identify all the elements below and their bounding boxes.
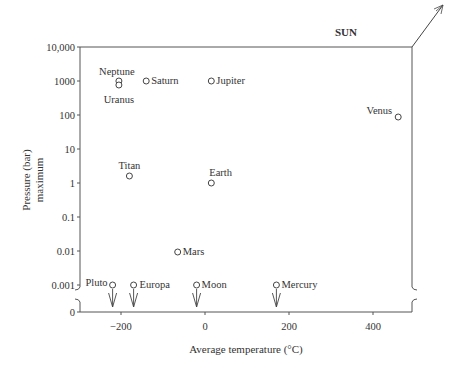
- y-axis-label: Pressure (bar)maximum: [20, 149, 45, 211]
- y-tick-label: 0.01: [57, 246, 75, 257]
- x-tick-label: 200: [281, 321, 297, 332]
- y-tick-label: 1000: [54, 76, 75, 87]
- data-point-mercury: Mercury: [272, 279, 318, 307]
- pressure-temperature-chart: 10,00010001001010.10.010.0010 −200020040…: [0, 0, 454, 366]
- data-point-titan: Titan: [119, 160, 142, 179]
- y-tick-label: 10,000: [46, 42, 75, 53]
- data-points: NeptuneUranusSaturnJupiterVenusTitanEart…: [85, 66, 401, 307]
- plot-frame: [75, 47, 417, 312]
- y-axis-label-line2: maximum: [33, 157, 45, 202]
- circle-marker-icon: [131, 282, 137, 288]
- data-point-venus: Venus: [367, 105, 402, 120]
- data-point-pluto: Pluto: [85, 277, 116, 307]
- point-label: Moon: [202, 279, 228, 290]
- circle-marker-icon: [395, 114, 401, 120]
- y-tick-label: 100: [59, 110, 75, 121]
- sun-arrow-icon: [412, 5, 443, 47]
- point-label: Mars: [183, 246, 205, 257]
- down-arrow-icon: [130, 289, 138, 307]
- sun-annotation: SUN: [335, 5, 443, 47]
- circle-marker-icon: [208, 180, 214, 186]
- point-label: Earth: [209, 167, 232, 178]
- point-label: Titan: [119, 160, 142, 171]
- y-tick-label: 0.1: [62, 212, 75, 223]
- circle-marker-icon: [273, 282, 279, 288]
- point-label: Saturn: [151, 75, 179, 86]
- data-point-mars: Mars: [175, 246, 205, 257]
- point-label: Neptune: [99, 66, 135, 77]
- sun-arrowhead-icon: [434, 5, 443, 14]
- y-axis: 10,00010001001010.10.010.0010: [46, 42, 80, 318]
- data-point-uranus: Uranus: [104, 82, 134, 105]
- point-label: Pluto: [85, 277, 107, 288]
- data-point-neptune: Neptune: [99, 66, 135, 84]
- point-label: Mercury: [281, 279, 318, 290]
- y-tick-label: 1: [70, 178, 75, 189]
- data-point-jupiter: Jupiter: [208, 75, 245, 86]
- circle-marker-icon: [175, 249, 181, 255]
- y-tick-label: 10: [65, 144, 76, 155]
- x-tick-label: 400: [365, 321, 381, 332]
- point-label: Uranus: [104, 94, 134, 105]
- x-tick-label: 0: [202, 321, 207, 332]
- down-arrow-icon: [109, 289, 117, 307]
- y-axis-label-line1: Pressure (bar): [20, 149, 33, 211]
- circle-marker-icon: [194, 282, 200, 288]
- x-tick-label: −200: [110, 321, 132, 332]
- x-axis-label: Average temperature (°C): [189, 343, 303, 356]
- down-arrow-icon: [272, 289, 280, 307]
- y-tick-label: 0.001: [51, 280, 75, 291]
- data-point-moon: Moon: [193, 279, 228, 307]
- circle-marker-icon: [126, 173, 132, 179]
- down-arrow-icon: [193, 289, 201, 307]
- data-point-europa: Europa: [130, 279, 171, 307]
- data-point-earth: Earth: [208, 167, 232, 186]
- point-label: Jupiter: [216, 75, 245, 86]
- point-label: Venus: [367, 105, 393, 116]
- circle-marker-icon: [116, 82, 122, 88]
- circle-marker-icon: [208, 78, 214, 84]
- circle-marker-icon: [143, 78, 149, 84]
- point-label: Europa: [140, 279, 171, 290]
- data-point-saturn: Saturn: [143, 75, 179, 86]
- circle-marker-icon: [110, 282, 116, 288]
- x-axis: −2000200400: [110, 312, 381, 332]
- sun-label: SUN: [335, 26, 357, 38]
- y-tick-label: 0: [70, 307, 75, 318]
